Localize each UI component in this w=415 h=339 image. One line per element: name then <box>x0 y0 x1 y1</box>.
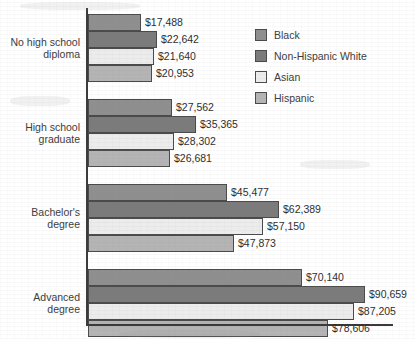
bar <box>88 31 157 48</box>
category-label: High schoolgraduate <box>0 121 80 146</box>
bar <box>88 218 263 235</box>
bar <box>88 14 141 31</box>
legend-item-black: Black <box>255 24 367 45</box>
legend-item-hispanic: Hispanic <box>255 87 367 108</box>
y-axis-line <box>86 8 88 325</box>
legend-swatch-asian-icon <box>255 71 267 83</box>
category-label-line: degree <box>0 303 80 316</box>
bar-value-label: $28,302 <box>178 133 216 150</box>
bar-value-label: $27,562 <box>176 99 214 116</box>
category-label-line: graduate <box>0 133 80 146</box>
legend-swatch-black-icon <box>255 29 267 41</box>
bar-value-label: $45,477 <box>231 184 269 201</box>
bar <box>88 320 328 337</box>
scan-artifact <box>300 160 370 169</box>
category-label-line: diploma <box>0 48 80 61</box>
legend-swatch-hispanic-icon <box>255 92 267 104</box>
category-label-line: No high school <box>0 36 80 49</box>
bar <box>88 48 154 65</box>
bar <box>88 269 302 286</box>
bar-value-label: $57,150 <box>267 218 305 235</box>
bar <box>88 286 365 303</box>
category-label-line: Bachelor's <box>0 206 80 219</box>
bar <box>88 133 174 150</box>
bar-value-label: $26,681 <box>174 150 212 167</box>
bar-value-label: $70,140 <box>306 269 344 286</box>
category-label-line: degree <box>0 218 80 231</box>
scan-artifact <box>10 96 70 106</box>
chart-legend: Black Non-Hispanic White Asian Hispanic <box>255 24 367 108</box>
bar-value-label: $21,640 <box>158 48 196 65</box>
bar <box>88 150 170 167</box>
bar-value-label: $78,606 <box>332 320 370 337</box>
scan-artifact <box>20 2 140 10</box>
category-label: No high schooldiploma <box>0 36 80 61</box>
bar-value-label: $47,873 <box>238 235 276 252</box>
legend-item-non-hispanic-white: Non-Hispanic White <box>255 45 367 66</box>
legend-swatch-non-hispanic-white-icon <box>255 50 267 62</box>
legend-label-black: Black <box>274 29 300 41</box>
bar-value-label: $17,488 <box>145 14 183 31</box>
bar-value-label: $62,389 <box>283 201 321 218</box>
category-label: Advanceddegree <box>0 291 80 316</box>
bar <box>88 116 196 133</box>
bar <box>88 201 279 218</box>
legend-label-non-hispanic-white: Non-Hispanic White <box>274 50 367 62</box>
bar-value-label: $90,659 <box>369 286 407 303</box>
bar <box>88 303 354 320</box>
bar-value-label: $22,642 <box>161 31 199 48</box>
bar-value-label: $20,953 <box>156 65 194 82</box>
category-label-line: Advanced <box>0 291 80 304</box>
bar-value-label: $87,205 <box>358 303 396 320</box>
legend-label-hispanic: Hispanic <box>274 92 314 104</box>
legend-item-asian: Asian <box>255 66 367 87</box>
legend-label-asian: Asian <box>274 71 300 83</box>
bar <box>88 235 234 252</box>
bar <box>88 184 227 201</box>
bar-chart: $17,488$22,642$21,640$20,953$27,562$35,3… <box>0 0 415 339</box>
bar-value-label: $35,365 <box>200 116 238 133</box>
category-label: Bachelor'sdegree <box>0 206 80 231</box>
bar <box>88 65 152 82</box>
category-label-line: High school <box>0 121 80 134</box>
bar <box>88 99 172 116</box>
